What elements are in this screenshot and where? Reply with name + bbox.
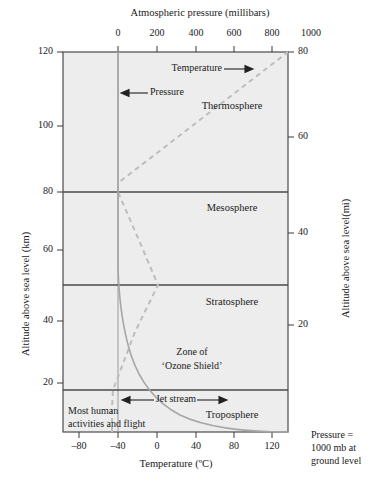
top-tick-label-200: 200 xyxy=(150,28,165,38)
annotation-ozone-shield: ‘Ozone Shield’ xyxy=(162,361,223,371)
annotation-temperature: Temperature xyxy=(172,63,222,73)
layer-label-stratosphere: Stratosphere xyxy=(206,297,259,308)
top-tick-label-1000: 1000 xyxy=(301,28,321,38)
left-axis-title: Altitude above sea level (km) xyxy=(20,232,31,356)
bottom-axis-title: Temperature (ºC) xyxy=(140,459,213,470)
bottom-tick-label-neg80: –80 xyxy=(72,441,87,451)
bottom-tick-label-neg40: –40 xyxy=(111,441,126,451)
right-tick-label-40: 40 xyxy=(298,227,308,237)
annotation-most-human: Most human xyxy=(68,406,118,416)
atmosphere-layers-chart: Atmospheric pressure (millibars) 0 200 4… xyxy=(0,0,383,487)
left-tick-label-40: 40 xyxy=(43,315,53,325)
bottom-tick-label-120: 120 xyxy=(265,441,280,451)
top-tick-label-600: 600 xyxy=(227,28,242,38)
top-tick-label-800: 800 xyxy=(265,28,280,38)
right-tick-label-80: 80 xyxy=(298,46,308,56)
left-tick-label-60: 60 xyxy=(43,244,53,254)
layer-label-mesosphere: Mesosphere xyxy=(207,203,258,214)
side-note-line-3: ground level xyxy=(311,456,361,466)
left-tick-label-100: 100 xyxy=(38,120,53,130)
side-note-line-1: Pressure = xyxy=(311,430,353,440)
side-note-line-2: 1000 mb at xyxy=(311,443,356,453)
top-axis-ticks xyxy=(118,46,288,52)
right-axis-title: Altitude above sea level(mi) xyxy=(340,199,351,318)
right-tick-label-20: 20 xyxy=(298,319,308,329)
left-tick-label-20: 20 xyxy=(43,377,53,387)
chart-canvas xyxy=(0,0,383,487)
top-axis-title: Atmospheric pressure (millibars) xyxy=(131,8,270,19)
right-axis-ticks xyxy=(288,52,294,325)
left-axis-ticks xyxy=(57,52,63,383)
left-tick-label-80: 80 xyxy=(43,186,53,196)
bottom-axis-ticks xyxy=(79,432,272,438)
bottom-tick-label-40: 40 xyxy=(191,441,201,451)
annotation-activities-and-flight: activities and flight xyxy=(68,419,145,429)
annotation-zone-of: Zone of xyxy=(176,347,207,357)
layer-label-troposphere: Troposphere xyxy=(206,410,259,421)
right-tick-label-60: 60 xyxy=(298,131,308,141)
bottom-tick-label-80: 80 xyxy=(229,441,239,451)
top-tick-label-400: 400 xyxy=(189,28,204,38)
annotation-jet-stream: Jet stream xyxy=(156,394,196,404)
left-tick-label-120: 120 xyxy=(38,46,53,56)
annotation-pressure: Pressure xyxy=(150,87,184,97)
bottom-tick-label-0: 0 xyxy=(155,441,160,451)
layer-label-thermosphere: Thermosphere xyxy=(202,101,263,112)
top-tick-label-0: 0 xyxy=(116,28,121,38)
